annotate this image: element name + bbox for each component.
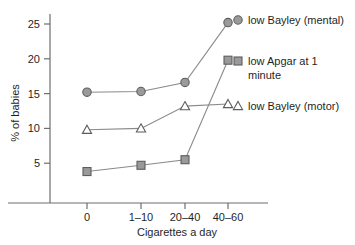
x-axis-title: Cigarettes a day xyxy=(137,226,218,238)
y-tick-label-5: 5 xyxy=(34,157,40,169)
data-point-0-0 xyxy=(83,88,91,96)
y-axis-title: % of babies xyxy=(9,84,21,142)
square-marker xyxy=(234,57,242,65)
legend-label-0: low Bayley (mental) xyxy=(248,14,344,26)
x-tick-label-0: 0 xyxy=(84,211,90,223)
x-tick-label-3: 40–60 xyxy=(213,211,244,223)
data-point-1-2 xyxy=(181,156,189,164)
data-point-0-2 xyxy=(181,78,189,86)
y-tick-label-25: 25 xyxy=(28,18,40,30)
data-point-2-1 xyxy=(136,124,145,132)
series-2 xyxy=(82,99,232,133)
legend-item-1: low Apgar at 1minute xyxy=(234,55,318,81)
series-line-1 xyxy=(87,60,228,171)
y-axis-ticks: 510152025 xyxy=(28,18,50,169)
data-point-0-1 xyxy=(137,87,145,95)
x-tick-label-1: 1–10 xyxy=(129,211,153,223)
data-point-1-3 xyxy=(224,56,232,64)
chart-canvas: 510152025 01–1020–4040–60 Cigarettes a d… xyxy=(0,0,355,245)
series-0 xyxy=(83,18,232,96)
legend-item-2: low Bayley (motor) xyxy=(233,100,339,112)
circle-marker xyxy=(234,16,242,24)
y-tick-label-20: 20 xyxy=(28,53,40,65)
series-group xyxy=(82,18,232,175)
legend-item-0: low Bayley (mental) xyxy=(234,14,344,26)
legend-label-1: low Apgar at 1 xyxy=(248,55,318,67)
data-point-1-0 xyxy=(83,168,91,176)
chart-legend: low Bayley (mental)low Apgar at 1minutel… xyxy=(233,14,344,112)
data-point-1-1 xyxy=(137,161,145,169)
y-tick-label-10: 10 xyxy=(28,122,40,134)
x-tick-label-2: 20–40 xyxy=(170,211,201,223)
y-tick-label-15: 15 xyxy=(28,88,40,100)
legend-label-2: low Bayley (motor) xyxy=(248,100,339,112)
chart-figure: 510152025 01–1020–4040–60 Cigarettes a d… xyxy=(0,0,355,245)
axes-group xyxy=(8,14,268,203)
series-line-0 xyxy=(87,23,228,93)
data-point-0-3 xyxy=(224,18,232,26)
triangle-marker xyxy=(233,101,242,109)
legend-label-1-line2: minute xyxy=(248,69,281,81)
data-point-2-3 xyxy=(223,99,232,107)
x-axis-ticks: 01–1020–4040–60 xyxy=(84,203,243,223)
series-1 xyxy=(83,56,232,175)
